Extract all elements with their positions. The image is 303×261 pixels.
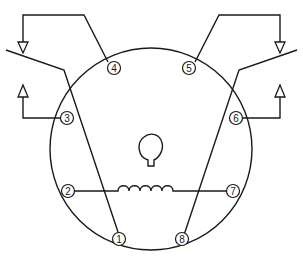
keyhole-key-icon	[139, 134, 162, 166]
pin-1: 1	[113, 233, 126, 246]
pin-3: 3	[61, 112, 74, 125]
pin-2: 2	[62, 185, 75, 198]
pin-5-label: 5	[186, 63, 192, 74]
pin-4-label: 4	[111, 63, 117, 74]
right-down-arrow-icon	[275, 42, 285, 53]
pin-5: 5	[183, 62, 196, 75]
pin-4: 4	[108, 62, 121, 75]
left-up-arrow-icon	[18, 85, 28, 97]
pin-3-label: 3	[64, 113, 70, 124]
connector-outline	[50, 48, 252, 250]
left-upper-wire	[23, 15, 108, 62]
pin-6-label: 6	[233, 113, 239, 124]
pin-6: 6	[230, 112, 243, 125]
pin-8-label: 8	[179, 234, 185, 245]
right-upper-wire	[195, 15, 280, 62]
pin-7: 7	[227, 185, 240, 198]
right-switch-contact-line	[183, 50, 297, 238]
pin-7-label: 7	[230, 186, 236, 197]
pin-8: 8	[176, 233, 189, 246]
left-down-arrow-icon	[18, 42, 28, 53]
pin-1-label: 1	[116, 234, 122, 245]
right-lower-wire	[242, 97, 280, 118]
right-up-arrow-icon	[275, 85, 285, 97]
coil-icon	[74, 186, 227, 191]
left-switch-contact-line	[6, 50, 120, 238]
connector-diagram: 4 5 3 6 2 7 1 8	[0, 0, 303, 261]
pin-2-label: 2	[65, 186, 71, 197]
